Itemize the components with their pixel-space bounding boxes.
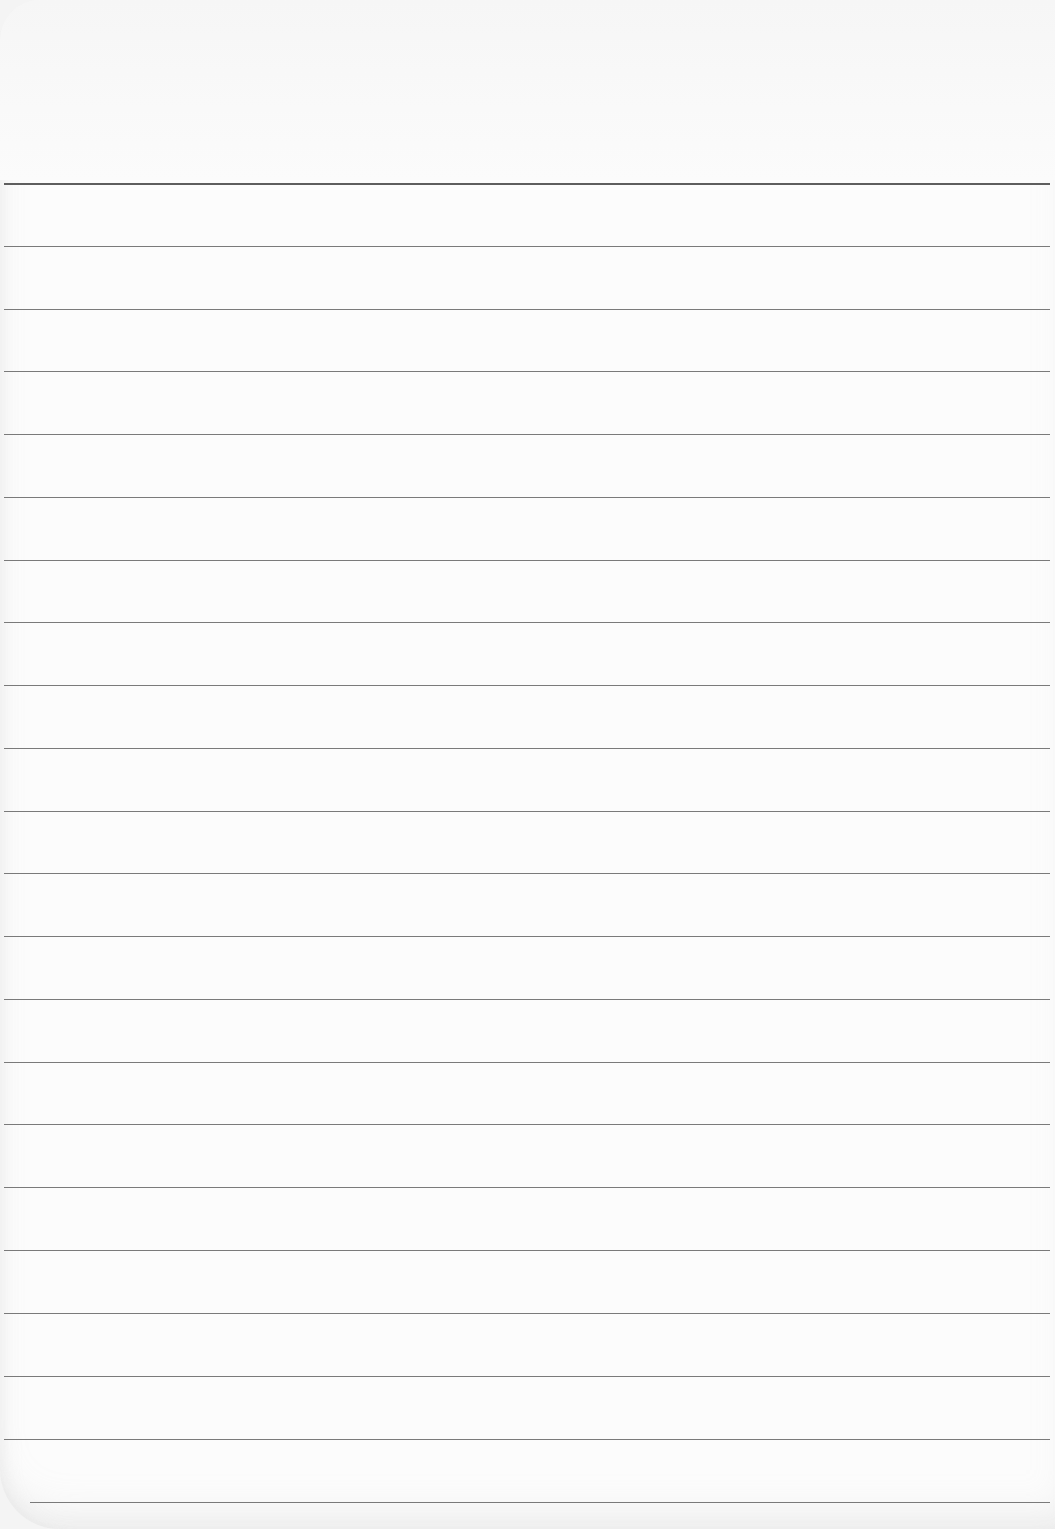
- ruled-line: [4, 1187, 1050, 1188]
- ruled-line: [4, 1062, 1050, 1063]
- ruled-line: [4, 309, 1050, 310]
- ruled-line: [4, 183, 1050, 185]
- ruled-line: [4, 936, 1050, 937]
- ruled-line: [4, 1376, 1050, 1377]
- ruled-line: [4, 1250, 1050, 1251]
- ruled-line: [4, 246, 1050, 247]
- ruled-line: [4, 560, 1050, 561]
- ruled-line: [4, 748, 1050, 749]
- ruled-line: [4, 371, 1050, 372]
- ruled-line: [4, 811, 1050, 812]
- ruled-line: [4, 873, 1050, 874]
- ruled-line: [4, 497, 1050, 498]
- ruled-line: [4, 1439, 1050, 1440]
- ruled-line: [4, 622, 1050, 623]
- ruled-line: [30, 1502, 1050, 1503]
- ruled-line: [4, 434, 1050, 435]
- ruled-line: [4, 1313, 1050, 1314]
- ruled-line: [4, 685, 1050, 686]
- ruled-line: [4, 1124, 1050, 1125]
- lined-paper-sheet: [0, 0, 1055, 1529]
- sheet-header-blank-area: [0, 0, 1055, 180]
- ruled-line: [4, 999, 1050, 1000]
